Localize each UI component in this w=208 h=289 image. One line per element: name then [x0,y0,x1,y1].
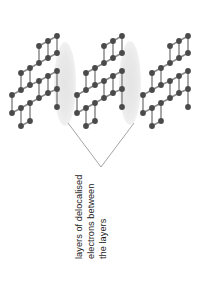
carbon-atom [167,78,173,84]
carbon-atom [54,86,60,92]
carbon-atom [18,123,24,129]
carbon-atom [110,90,116,96]
carbon-atom [176,73,182,79]
carbon-atom [83,123,89,129]
graphite-diagram: layers of delocalised electrons between … [0,0,208,289]
carbon-atom [158,82,164,88]
carbon-atom [54,33,60,39]
carbon-atom [119,104,125,110]
carbon-atom [119,68,125,74]
carbon-atom [119,50,125,56]
carbon-atom [149,105,155,111]
carbon-atom [101,43,107,49]
caption-line-1: layers of delocalised [74,175,84,259]
carbon-atom [158,118,164,124]
carbon-atom [18,105,24,111]
graphite-structure-illustration: layers of delocalised electrons between … [0,0,208,289]
carbon-atom [27,100,33,106]
carbon-atom [149,70,155,76]
carbon-atom [185,86,191,92]
carbon-atom [185,50,191,56]
carbon-atom [45,38,51,44]
carbon-atom [27,65,33,71]
carbon-atom [92,65,98,71]
carbon-atom [119,33,125,39]
carbon-atom [54,104,60,110]
carbon-atom [92,82,98,88]
carbon-atom [167,95,173,101]
carbon-atom [83,87,89,93]
carbon-atom [92,118,98,124]
carbon-atom [54,68,60,74]
carbon-atom [45,73,51,79]
carbon-atom [176,38,182,44]
carbon-atom [140,92,146,98]
carbon-atom [101,78,107,84]
carbon-atom [83,105,89,111]
carbon-atom [45,55,51,61]
carbon-atom [149,87,155,93]
carbon-atom [110,38,116,44]
caption-line-3: the layers [98,218,108,259]
carbon-atom [54,50,60,56]
carbon-atom [36,95,42,101]
carbon-atom [9,110,15,116]
carbon-atom [119,86,125,92]
carbon-atom [74,92,80,98]
carbon-atom [45,90,51,96]
carbon-atom [176,55,182,61]
carbon-atom [185,104,191,110]
carbon-atom [149,123,155,129]
carbon-atom [9,92,15,98]
carbon-atom [140,110,146,116]
carbon-atom [27,82,33,88]
carbon-atom [158,65,164,71]
caption-line-2: electrons between [86,184,96,259]
carbon-atom [167,43,173,49]
carbon-atom [36,43,42,49]
carbon-atom [83,70,89,76]
carbon-atom [18,87,24,93]
carbon-atom [101,95,107,101]
carbon-atom [185,68,191,74]
carbon-atom [185,33,191,39]
carbon-atom [92,100,98,106]
carbon-atom [27,118,33,124]
carbon-atom [74,110,80,116]
carbon-atom [101,60,107,66]
carbon-atom [176,90,182,96]
carbon-atom [18,70,24,76]
carbon-atom [167,60,173,66]
carbon-atom [110,73,116,79]
carbon-atom [110,55,116,61]
carbon-atom [36,78,42,84]
carbon-atom [158,100,164,106]
carbon-atom [36,60,42,66]
